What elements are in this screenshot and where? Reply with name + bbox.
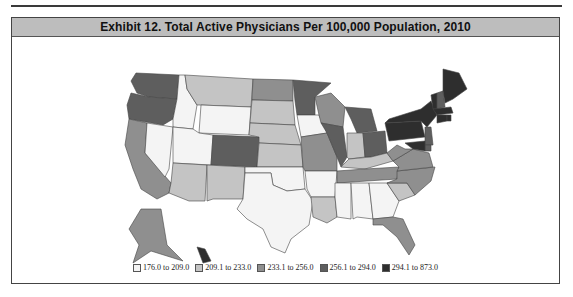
state-mi — [345, 107, 377, 133]
state-nm — [207, 165, 245, 201]
state-ak — [129, 209, 183, 263]
legend-swatch — [320, 264, 328, 272]
state-mt — [185, 75, 253, 107]
legend-item: 294.1 to 873.0 — [382, 263, 438, 272]
legend-item: 176.0 to 209.0 — [133, 263, 189, 272]
state-sd — [250, 100, 295, 125]
state-de — [425, 145, 431, 151]
state-ri — [447, 115, 451, 121]
state-co — [211, 135, 259, 167]
top-rule — [11, 5, 562, 7]
legend-item: 256.1 to 294.0 — [320, 263, 376, 272]
state-in — [347, 133, 365, 159]
state-shapes — [125, 69, 467, 263]
legend-label: 256.1 to 294.0 — [330, 263, 376, 272]
legend-label: 294.1 to 873.0 — [392, 263, 438, 272]
state-ar — [305, 171, 337, 197]
state-pa — [385, 121, 425, 141]
state-fl — [373, 217, 415, 255]
chart-title: Exhibit 12. Total Active Physicians Per … — [100, 20, 471, 34]
legend-swatch — [195, 264, 203, 272]
state-ms — [335, 183, 351, 219]
legend: 176.0 to 209.0 209.1 to 233.0 233.1 to 2… — [12, 263, 559, 272]
state-la — [311, 197, 337, 223]
state-az — [169, 163, 207, 201]
state-nj — [425, 127, 433, 145]
state-ks — [257, 143, 303, 167]
legend-label: 176.0 to 209.0 — [143, 263, 189, 272]
legend-item: 233.1 to 256.0 — [257, 263, 313, 272]
state-oh — [363, 131, 387, 157]
state-me — [443, 69, 467, 103]
legend-swatch — [382, 264, 390, 272]
title-band: Exhibit 12. Total Active Physicians Per … — [12, 18, 559, 37]
us-choropleth-map — [12, 37, 561, 267]
legend-label: 209.1 to 233.0 — [205, 263, 251, 272]
legend-item: 209.1 to 233.0 — [195, 263, 251, 272]
legend-label: 233.1 to 256.0 — [267, 263, 313, 272]
state-ct — [437, 115, 447, 123]
state-wy — [199, 105, 251, 135]
state-hi — [197, 247, 211, 263]
legend-swatch — [257, 264, 265, 272]
state-tn — [337, 167, 399, 183]
legend-swatch — [133, 264, 141, 272]
exhibit-frame: Exhibit 12. Total Active Physicians Per … — [11, 17, 560, 284]
state-nd — [252, 79, 293, 101]
